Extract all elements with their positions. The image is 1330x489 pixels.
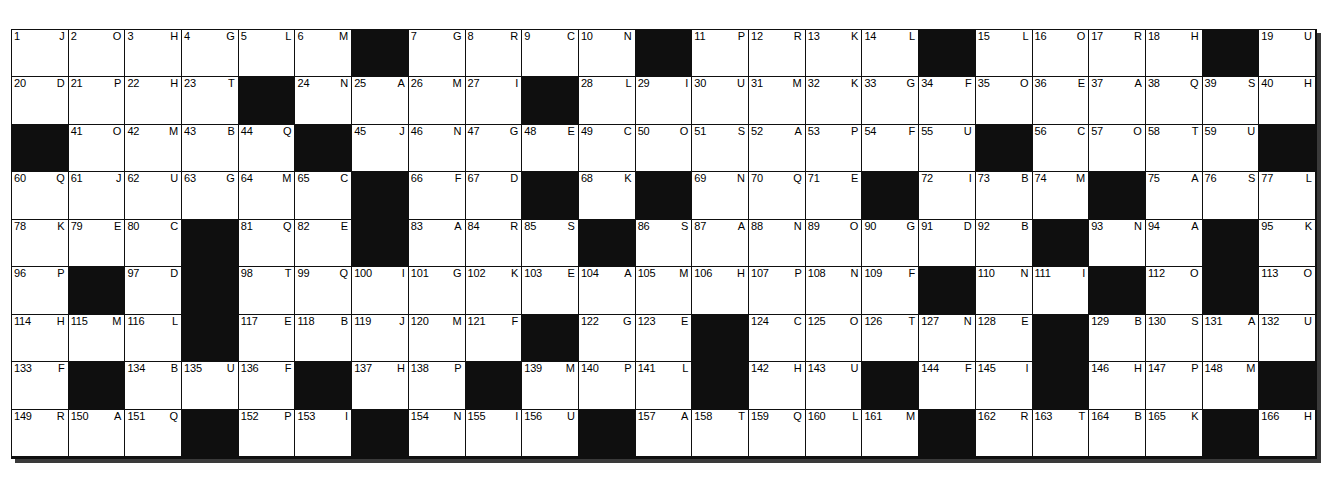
cell-answer[interactable] xyxy=(1033,186,1089,218)
letter-cell[interactable]: 150A xyxy=(69,410,126,457)
letter-cell[interactable]: 34F xyxy=(919,77,976,124)
letter-cell[interactable]: 42M xyxy=(125,125,182,172)
letter-cell[interactable]: 147P xyxy=(1146,362,1203,409)
cell-answer[interactable] xyxy=(1033,424,1089,456)
letter-cell[interactable]: 136F xyxy=(239,362,296,409)
letter-cell[interactable]: 124C xyxy=(749,315,806,362)
letter-cell[interactable]: 64M xyxy=(239,172,296,219)
cell-answer[interactable] xyxy=(1146,91,1202,123)
cell-answer[interactable] xyxy=(239,234,295,266)
cell-answer[interactable] xyxy=(806,44,862,76)
cell-answer[interactable] xyxy=(409,91,465,123)
letter-cell[interactable]: 151Q xyxy=(125,410,182,457)
letter-cell[interactable]: 44Q xyxy=(239,125,296,172)
cell-answer[interactable] xyxy=(1089,329,1145,361)
cell-answer[interactable] xyxy=(69,234,125,266)
letter-cell[interactable]: 70Q xyxy=(749,172,806,219)
cell-answer[interactable] xyxy=(806,329,862,361)
letter-cell[interactable]: 47G xyxy=(466,125,523,172)
cell-answer[interactable] xyxy=(579,44,635,76)
cell-answer[interactable] xyxy=(1089,376,1145,408)
letter-cell[interactable]: 168E xyxy=(69,457,126,458)
cell-answer[interactable] xyxy=(1146,424,1202,456)
letter-cell[interactable]: 100I xyxy=(352,267,409,314)
cell-answer[interactable] xyxy=(636,139,692,171)
cell-answer[interactable] xyxy=(239,139,295,171)
cell-answer[interactable] xyxy=(862,424,918,456)
letter-cell[interactable]: 7G xyxy=(409,30,466,77)
cell-answer[interactable] xyxy=(12,424,68,456)
letter-cell[interactable]: 85S xyxy=(522,220,579,267)
cell-answer[interactable] xyxy=(12,329,68,361)
letter-cell[interactable]: 157A xyxy=(636,410,693,457)
cell-answer[interactable] xyxy=(749,376,805,408)
letter-cell[interactable]: 92B xyxy=(976,220,1033,267)
cell-answer[interactable] xyxy=(1089,234,1145,266)
cell-answer[interactable] xyxy=(409,44,465,76)
cell-answer[interactable] xyxy=(239,329,295,361)
letter-cell[interactable]: 99Q xyxy=(295,267,352,314)
letter-cell[interactable]: 116L xyxy=(125,315,182,362)
letter-cell[interactable]: 63G xyxy=(182,172,239,219)
cell-answer[interactable] xyxy=(125,329,181,361)
cell-answer[interactable] xyxy=(466,424,522,456)
cell-answer[interactable] xyxy=(1146,329,1202,361)
cell-answer[interactable] xyxy=(295,234,351,266)
cell-answer[interactable] xyxy=(976,329,1032,361)
letter-cell[interactable]: 28L xyxy=(579,77,636,124)
cell-answer[interactable] xyxy=(12,91,68,123)
letter-cell[interactable]: 88N xyxy=(749,220,806,267)
cell-answer[interactable] xyxy=(749,91,805,123)
cell-answer[interactable] xyxy=(409,139,465,171)
cell-answer[interactable] xyxy=(12,186,68,218)
cell-answer[interactable] xyxy=(295,44,351,76)
letter-cell[interactable]: 40H xyxy=(1259,77,1316,124)
cell-answer[interactable] xyxy=(69,329,125,361)
letter-cell[interactable]: 1J xyxy=(12,30,69,77)
letter-cell[interactable]: 142H xyxy=(749,362,806,409)
letter-cell[interactable]: 121F xyxy=(466,315,523,362)
cell-answer[interactable] xyxy=(636,234,692,266)
letter-cell[interactable]: 169S xyxy=(125,457,182,458)
cell-answer[interactable] xyxy=(125,234,181,266)
letter-cell[interactable]: 8R xyxy=(466,30,523,77)
cell-answer[interactable] xyxy=(919,186,975,218)
letter-cell[interactable]: 94A xyxy=(1146,220,1203,267)
cell-answer[interactable] xyxy=(182,186,238,218)
cell-answer[interactable] xyxy=(1259,424,1315,456)
letter-cell[interactable]: 119J xyxy=(352,315,409,362)
letter-cell[interactable]: 78K xyxy=(12,220,69,267)
letter-cell[interactable]: 68K xyxy=(579,172,636,219)
cell-answer[interactable] xyxy=(1146,44,1202,76)
letter-cell[interactable]: 38Q xyxy=(1146,77,1203,124)
cell-answer[interactable] xyxy=(692,44,748,76)
letter-cell[interactable]: 105M xyxy=(636,267,693,314)
letter-cell[interactable]: 56C xyxy=(1033,125,1090,172)
cell-answer[interactable] xyxy=(919,329,975,361)
cell-answer[interactable] xyxy=(12,376,68,408)
letter-cell[interactable]: 114H xyxy=(12,315,69,362)
letter-cell[interactable]: 130S xyxy=(1146,315,1203,362)
cell-answer[interactable] xyxy=(1033,44,1089,76)
letter-cell[interactable]: 29I xyxy=(636,77,693,124)
letter-cell[interactable]: 19U xyxy=(1259,30,1316,77)
letter-cell[interactable]: 113O xyxy=(1259,267,1316,314)
letter-cell[interactable]: 117E xyxy=(239,315,296,362)
cell-answer[interactable] xyxy=(579,139,635,171)
cell-answer[interactable] xyxy=(1146,186,1202,218)
cell-answer[interactable] xyxy=(749,186,805,218)
cell-answer[interactable] xyxy=(1089,424,1145,456)
cell-answer[interactable] xyxy=(806,424,862,456)
cell-answer[interactable] xyxy=(919,376,975,408)
cell-answer[interactable] xyxy=(1203,91,1259,123)
letter-cell[interactable]: 148M xyxy=(1203,362,1260,409)
letter-cell[interactable]: 4G xyxy=(182,30,239,77)
letter-cell[interactable]: 16O xyxy=(1033,30,1090,77)
cell-answer[interactable] xyxy=(976,281,1032,313)
letter-cell[interactable]: 17R xyxy=(1089,30,1146,77)
letter-cell[interactable]: 33G xyxy=(862,77,919,124)
letter-cell[interactable]: 35O xyxy=(976,77,1033,124)
cell-answer[interactable] xyxy=(295,186,351,218)
cell-answer[interactable] xyxy=(466,91,522,123)
letter-cell[interactable]: 6M xyxy=(295,30,352,77)
